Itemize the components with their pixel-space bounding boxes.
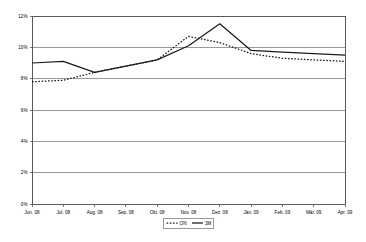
x-tick-label: Feb. 09: [275, 210, 291, 215]
y-tick-label: 4%: [21, 139, 28, 144]
x-tick-label: Nov. 08: [181, 210, 197, 215]
legend-label-3m: 3M: [205, 221, 212, 226]
chart-container: 0%2%4%6%8%10%12% Jun. 08Jul. 08Aug. 08Se…: [0, 0, 366, 242]
y-tick-label: 2%: [21, 170, 28, 175]
x-tick-label: Jän. 09: [244, 210, 260, 215]
y-tick-label: 6%: [21, 108, 28, 113]
x-tick-label: Aug. 08: [87, 210, 103, 215]
x-tick-label: Sep. 08: [118, 210, 134, 215]
y-tick-label: 0%: [21, 202, 28, 207]
y-tick-label: 10%: [18, 45, 27, 50]
x-tick-label: Jun. 08: [24, 210, 40, 215]
x-tick-label: Jul. 08: [57, 210, 71, 215]
x-tick-label: Mär. 09: [306, 210, 322, 215]
legend-label-on: ON: [180, 221, 187, 226]
x-axis-tick-labels: Jun. 08Jul. 08Aug. 08Sep. 08Okt. 08Nov. …: [24, 210, 352, 215]
y-axis-tick-labels: 0%2%4%6%8%10%12%: [18, 14, 27, 207]
x-tick-label: Apr. 09: [338, 210, 353, 215]
y-tick-label: 8%: [21, 76, 28, 81]
series-line-3m: [32, 24, 345, 73]
gridlines: [32, 47, 345, 172]
chart-legend: ON 3M: [163, 219, 214, 229]
tick-marks: [30, 16, 346, 207]
x-tick-label: Okt. 08: [150, 210, 165, 215]
y-tick-label: 12%: [18, 14, 27, 19]
x-tick-label: Dez. 08: [212, 210, 228, 215]
line-chart: 0%2%4%6%8%10%12% Jun. 08Jul. 08Aug. 08Se…: [0, 0, 366, 242]
series-line-on: [32, 36, 345, 81]
